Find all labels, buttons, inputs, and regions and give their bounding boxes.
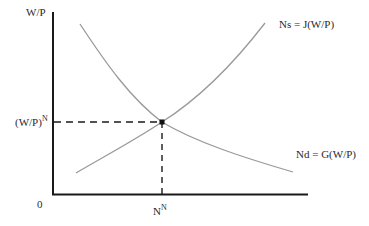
labor-demand-curve [80, 24, 293, 172]
equilibrium-wage-label: (W/P)N [15, 116, 48, 128]
equilibrium-wage-base: (W/P) [15, 116, 42, 128]
labor-supply-curve [76, 23, 265, 173]
labor-demand-label: Nd = G(W/P) [296, 148, 356, 160]
equilibrium-point [160, 120, 165, 125]
equilibrium-employment-base: N [153, 205, 161, 217]
equilibrium-employment-sup: N [161, 203, 167, 212]
labor-supply-label: Ns = J(W/P) [279, 18, 334, 30]
equilibrium-employment-label: NN [153, 205, 167, 217]
origin-label: 0 [37, 198, 43, 210]
labor-market-diagram [0, 0, 369, 226]
equilibrium-wage-sup: N [42, 114, 48, 123]
y-axis-label: W/P [26, 6, 46, 18]
